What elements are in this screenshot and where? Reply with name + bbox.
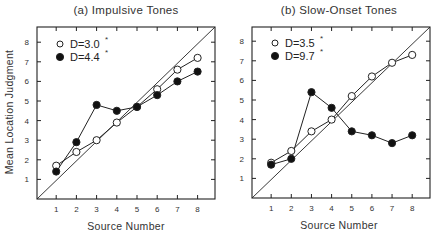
panel-a-title: (a) Impulsive Tones <box>73 4 178 16</box>
filled-circle-marker <box>174 78 181 85</box>
open-circle-marker <box>194 54 201 61</box>
panel-b-x-axis-label: Source Number <box>300 219 378 231</box>
legend-label: D=9.7 <box>285 50 315 62</box>
filled-circle-marker <box>308 89 315 96</box>
legend-open-circle-icon <box>272 40 278 46</box>
x-tick-label: 7 <box>390 204 395 213</box>
x-tick-label: 3 <box>94 205 99 214</box>
filled-circle-marker <box>53 168 60 175</box>
legend-open-circle-icon <box>57 41 63 47</box>
open-circle-marker <box>348 92 355 99</box>
y-tick-label: 4 <box>240 116 245 125</box>
y-tick-label: 3 <box>240 135 245 144</box>
y-tick-label: 1 <box>25 175 30 184</box>
x-tick-label: 5 <box>135 205 140 214</box>
x-tick-label: 5 <box>350 204 355 213</box>
legend-filled-circle-icon <box>271 52 278 59</box>
y-tick-label: 8 <box>25 38 30 47</box>
filled-circle-marker <box>268 161 275 168</box>
filled-circle-marker <box>133 103 140 110</box>
degree-mark: * <box>105 48 108 57</box>
y-tick-label: 6 <box>25 77 30 86</box>
degree-mark: * <box>320 47 323 56</box>
y-tick-label: 7 <box>240 57 245 66</box>
y-tick-label: 5 <box>240 96 245 105</box>
y-tick-label: 1 <box>240 174 245 183</box>
filled-circle-marker <box>194 68 201 75</box>
figure: Mean Location Judgment (a) Impulsive Ton… <box>0 0 431 234</box>
degree-mark: * <box>105 35 108 44</box>
filled-circle-marker <box>154 92 161 99</box>
filled-circle-marker <box>348 128 355 135</box>
panel-b-slow-onset-tones: (b) Slow-Onset Tones Source Number 12345… <box>240 4 430 231</box>
y-tick-label: 7 <box>25 58 30 67</box>
panel-b-plot-area: 1234567812345678D=3.5*D=9.7* <box>240 27 430 213</box>
legend-label: D=3.5 <box>285 37 315 49</box>
filled-circle-marker <box>368 132 375 139</box>
filled-circle-marker <box>93 101 100 108</box>
legend-label: D=4.4 <box>70 51 100 63</box>
y-tick-label: 8 <box>240 37 245 46</box>
x-tick-label: 2 <box>74 205 79 214</box>
x-tick-label: 1 <box>269 204 274 213</box>
open-circle-marker <box>174 66 181 73</box>
panel-a-plot-area: 1234567812345678D=3.0*D=4.4* <box>25 27 215 214</box>
y-axis-label: Mean Location Judgment <box>3 50 15 175</box>
panel-a-x-axis-label: Source Number <box>87 220 165 232</box>
x-tick-label: 7 <box>175 205 180 214</box>
x-tick-label: 2 <box>289 204 294 213</box>
open-circle-marker <box>73 148 80 155</box>
y-tick-label: 4 <box>25 117 30 126</box>
filled-circle-marker <box>328 104 335 111</box>
x-tick-label: 8 <box>410 204 415 213</box>
legend-label: D=3.0 <box>70 38 100 50</box>
x-tick-label: 6 <box>155 205 160 214</box>
x-tick-label: 8 <box>195 205 200 214</box>
y-tick-label: 3 <box>25 136 30 145</box>
open-circle-marker <box>409 51 416 58</box>
open-circle-marker <box>93 137 100 144</box>
legend-filled-circle-icon <box>56 53 63 60</box>
open-circle-marker <box>388 59 395 66</box>
x-tick-label: 1 <box>54 205 59 214</box>
panel-b-title: (b) Slow-Onset Tones <box>281 4 397 16</box>
y-tick-label: 2 <box>25 156 30 165</box>
y-tick-label: 2 <box>240 155 245 164</box>
x-tick-label: 4 <box>329 204 334 213</box>
x-tick-label: 3 <box>309 204 314 213</box>
series-line <box>56 72 197 172</box>
diagonal-reference-line <box>37 27 215 199</box>
filled-circle-marker <box>73 139 80 146</box>
y-tick-label: 6 <box>240 76 245 85</box>
open-circle-marker <box>288 147 295 154</box>
panel-a-impulsive-tones: (a) Impulsive Tones Source Number 123456… <box>25 4 215 232</box>
filled-circle-marker <box>113 107 120 114</box>
filled-circle-marker <box>409 132 416 139</box>
open-circle-marker <box>308 128 315 135</box>
x-tick-label: 6 <box>370 204 375 213</box>
filled-circle-marker <box>388 140 395 147</box>
open-circle-marker <box>368 73 375 80</box>
filled-circle-marker <box>288 155 295 162</box>
open-circle-marker <box>328 116 335 123</box>
open-circle-marker <box>113 119 120 126</box>
degree-mark: * <box>320 34 323 43</box>
y-tick-label: 5 <box>25 97 30 106</box>
diagonal-reference-line <box>252 27 430 198</box>
x-tick-label: 4 <box>115 205 120 214</box>
